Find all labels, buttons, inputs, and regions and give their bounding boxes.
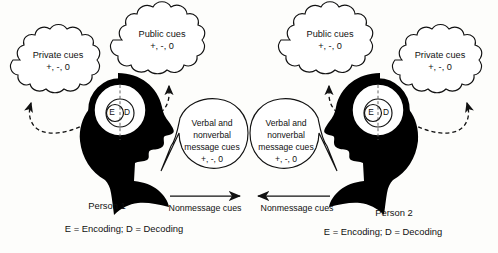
right-message-bubble: Verbal and nonverbal message cues +, -, … xyxy=(250,99,337,171)
right-encoding-letter: E xyxy=(368,107,374,117)
right-person-head xyxy=(324,73,418,215)
right-bubble-line3: message cues xyxy=(258,142,313,152)
right-private-cues-label: Private cues xyxy=(415,50,466,60)
left-private-cues-signs: +, -, 0 xyxy=(46,62,70,72)
left-bubble-line3: message cues xyxy=(184,142,239,152)
right-public-cues-cloud: Public cues +, -, 0 xyxy=(279,2,373,74)
right-legend: E = Encoding; D = Decoding xyxy=(324,226,442,237)
left-legend: E = Encoding; D = Decoding xyxy=(65,223,183,234)
right-public-cues-label: Public cues xyxy=(307,29,354,39)
left-private-cues-label: Private cues xyxy=(33,50,84,60)
left-bubble-line2: nonverbal xyxy=(193,130,231,140)
left-message-bubble: Verbal and nonverbal message cues +, -, … xyxy=(161,99,248,171)
right-decoding-letter: D xyxy=(383,107,389,117)
left-public-cues-label: Public cues xyxy=(139,29,186,39)
left-public-cues-cloud: Public cues +, -, 0 xyxy=(111,2,205,74)
right-private-cues-signs: +, -, 0 xyxy=(428,62,452,72)
right-nonmessage-label: Nonmessage cues xyxy=(261,203,334,213)
right-bubble-signs: +, -, 0 xyxy=(275,154,297,164)
left-person-label: Person 1 xyxy=(88,200,126,211)
left-bubble-signs: +, -, 0 xyxy=(201,154,223,164)
left-decoding-letter: D xyxy=(124,107,130,117)
right-bubble-line1: Verbal and xyxy=(265,118,306,128)
left-encoding-letter: E xyxy=(109,107,115,117)
left-person-head: E D xyxy=(80,73,174,215)
diagram-canvas: Private cues +, -, 0 Public cues +, -, 0 xyxy=(0,0,498,253)
right-bubble-line2: nonverbal xyxy=(267,130,305,140)
left-nonmessage-label: Nonmessage cues xyxy=(169,203,242,213)
communication-model-svg: Private cues +, -, 0 Public cues +, -, 0 xyxy=(0,0,498,253)
left-bubble-line1: Verbal and xyxy=(191,118,232,128)
left-private-cues-cloud: Private cues +, -, 0 xyxy=(11,25,100,93)
left-public-cues-signs: +, -, 0 xyxy=(150,41,174,51)
right-private-cues-cloud: Private cues +, -, 0 xyxy=(393,25,482,93)
right-public-cues-signs: +, -, 0 xyxy=(318,41,342,51)
right-person-label: Person 2 xyxy=(375,207,413,218)
